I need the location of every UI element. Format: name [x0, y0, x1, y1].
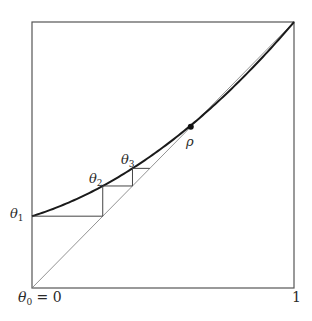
label-one: 1	[292, 290, 301, 304]
diagonal-line	[32, 22, 294, 288]
theta1-subscript: 1	[18, 213, 24, 223]
label-theta3: θ3	[121, 153, 135, 169]
theta0-equals: = 0	[32, 289, 62, 305]
label-theta2: θ2	[89, 172, 103, 188]
label-theta0: θ0 = 0	[18, 290, 62, 307]
theta3-symbol: θ	[121, 152, 129, 167]
rho-label: ρ	[186, 134, 194, 149]
cobweb-diagram	[0, 0, 312, 321]
label-theta1: θ1	[10, 207, 24, 223]
one-label: 1	[292, 289, 301, 305]
theta3-subscript: 3	[129, 159, 135, 169]
label-rho: ρ	[186, 135, 194, 148]
theta2-subscript: 2	[97, 178, 103, 188]
theta1-symbol: θ	[10, 206, 18, 221]
function-curve	[32, 22, 294, 216]
fixed-point-rho-marker	[188, 124, 194, 130]
theta2-symbol: θ	[89, 171, 97, 186]
